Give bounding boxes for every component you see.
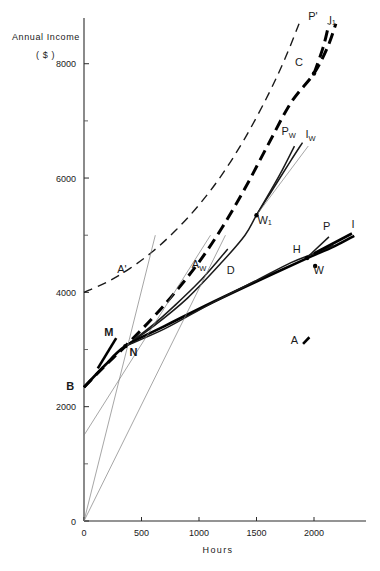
point-label-N: N — [129, 346, 137, 358]
point-marker-C — [312, 71, 316, 75]
y-tick-label-2000: 2000 — [56, 402, 76, 412]
y-axis-title: Annual Income — [12, 32, 80, 42]
series-Iw-curve — [125, 143, 302, 346]
y-axis-unit: ( $ ) — [36, 50, 55, 60]
curve-label-P: P' — [308, 10, 317, 22]
curve-label-PW: PW — [281, 125, 296, 140]
curve-label-IW: IW — [305, 128, 316, 143]
x-tick-label-1500: 1500 — [246, 528, 266, 538]
point-marker-N — [123, 344, 127, 348]
series-I — [314, 233, 352, 253]
series-Aw — [125, 249, 227, 346]
x-tick-label-1000: 1000 — [189, 528, 209, 538]
x-tick-label-500: 500 — [134, 528, 149, 538]
series-ray-shallow — [84, 235, 225, 521]
series-Iw-ray — [257, 146, 309, 215]
y-tick-label-0: 0 — [71, 517, 76, 527]
curve-label-I: I₁ — [329, 14, 336, 26]
point-label-H: H — [293, 243, 301, 255]
series-I1 — [84, 24, 336, 388]
x-axis-title: Hours — [202, 545, 233, 555]
leader-line-a — [303, 337, 309, 344]
y-tick-label-8000: 8000 — [56, 59, 76, 69]
series-P' — [314, 24, 329, 74]
series-ray-steep — [84, 235, 155, 521]
series-A' — [84, 24, 299, 293]
point-marker-H — [305, 256, 309, 260]
y-tick-label-6000: 6000 — [56, 174, 76, 184]
curve-label-P: P — [323, 220, 330, 232]
chart-figure: 020004000600080000500100015002000Annual … — [0, 0, 380, 571]
curve-label-I: I — [352, 218, 355, 230]
point-label-B: B — [66, 380, 74, 392]
point-label-M: M — [104, 326, 113, 338]
point-label-W: W — [313, 264, 324, 276]
point-label-W: W₁ — [258, 214, 272, 226]
curve-label-A: A' — [117, 263, 126, 275]
x-tick-label-2000: 2000 — [304, 528, 324, 538]
y-tick-label-4000: 4000 — [56, 288, 76, 298]
x-tick-label-0: 0 — [81, 528, 86, 538]
income-hours-plot: 020004000600080000500100015002000Annual … — [0, 0, 380, 571]
point-label-C: C — [295, 56, 303, 68]
point-label-D: D — [227, 264, 235, 276]
curve-label-A: A — [291, 334, 299, 346]
